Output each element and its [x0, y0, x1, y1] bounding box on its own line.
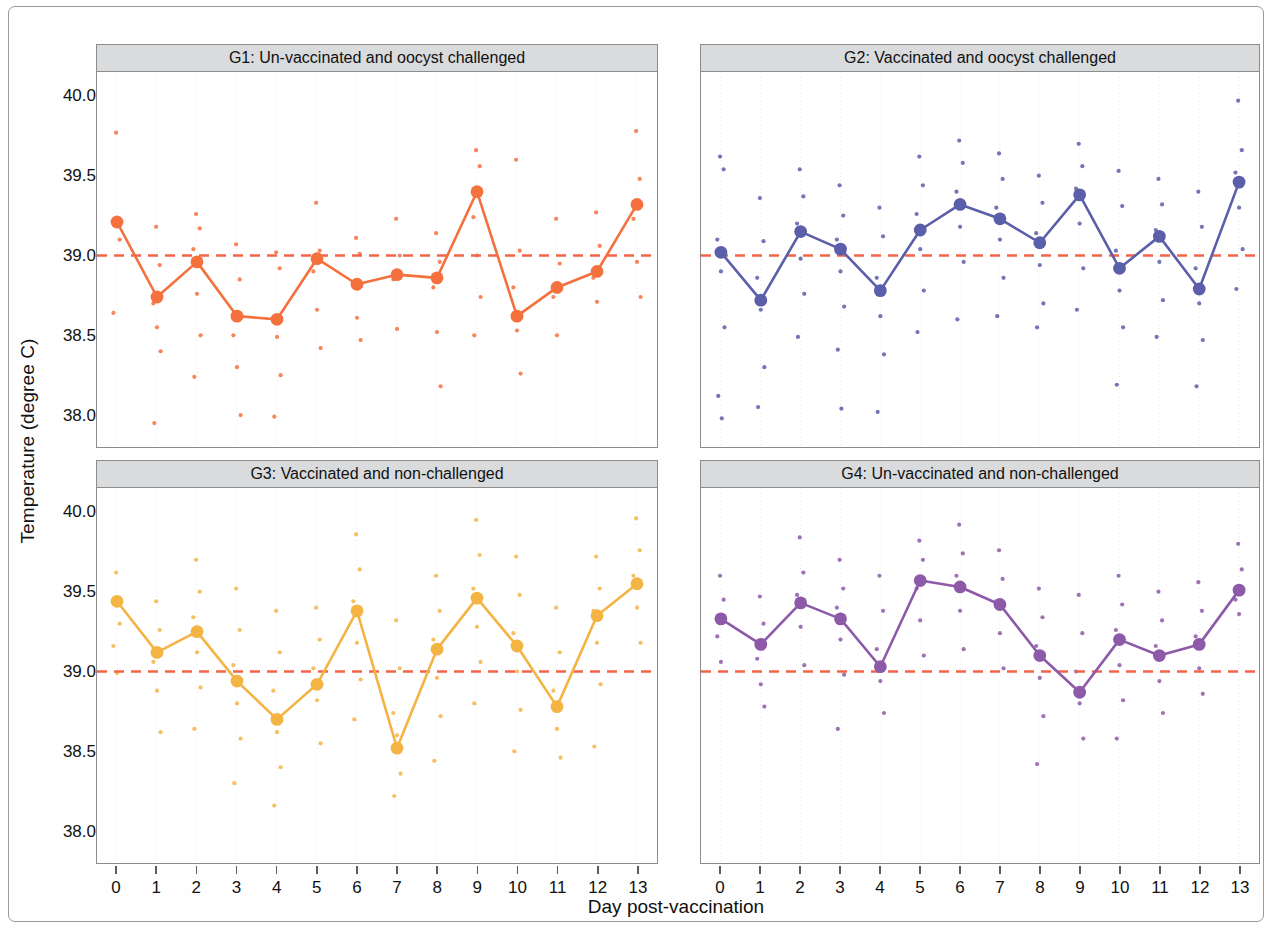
- x-tick-label: 9: [457, 878, 497, 898]
- data-point: [471, 586, 475, 590]
- mean-marker: [591, 609, 604, 622]
- data-point: [594, 210, 598, 214]
- data-point: [431, 637, 435, 641]
- data-point: [439, 714, 443, 718]
- plot-area-g4: [700, 488, 1260, 864]
- data-point: [354, 532, 358, 536]
- data-point: [1233, 170, 1237, 174]
- data-point: [882, 352, 886, 356]
- data-point: [955, 317, 959, 321]
- data-point: [479, 295, 483, 299]
- data-point: [192, 727, 196, 731]
- data-point: [1080, 164, 1084, 168]
- x-tick-mark: [839, 866, 841, 874]
- x-tick-mark: [196, 866, 198, 874]
- data-point: [1194, 266, 1198, 270]
- mean-marker: [715, 612, 728, 625]
- data-point: [231, 333, 235, 337]
- data-point: [995, 314, 999, 318]
- data-point: [472, 701, 476, 705]
- x-tick-mark: [436, 866, 438, 874]
- data-point: [478, 553, 482, 557]
- data-point: [235, 365, 239, 369]
- y-tick-label: 39.0: [34, 662, 96, 682]
- data-point: [518, 249, 522, 253]
- data-point: [954, 190, 958, 194]
- x-tick-mark: [959, 866, 961, 874]
- x-tick-mark: [1119, 866, 1121, 874]
- mean-marker: [834, 243, 847, 256]
- data-point: [114, 131, 118, 135]
- data-point: [519, 371, 523, 375]
- data-point: [762, 705, 766, 709]
- data-point: [598, 244, 602, 248]
- mean-marker: [715, 246, 728, 259]
- data-point: [922, 653, 926, 657]
- data-point: [836, 727, 840, 731]
- data-point: [1157, 679, 1161, 683]
- mean-marker: [794, 225, 807, 238]
- x-tick-mark: [477, 866, 479, 874]
- data-point: [234, 586, 238, 590]
- data-point: [1077, 142, 1081, 146]
- data-point: [882, 711, 886, 715]
- data-point: [111, 644, 115, 648]
- data-point: [957, 523, 961, 527]
- data-point: [1037, 586, 1041, 590]
- data-point: [1037, 174, 1041, 178]
- data-point: [478, 164, 482, 168]
- data-point: [755, 276, 759, 280]
- data-point: [1041, 301, 1045, 305]
- data-point: [195, 650, 199, 654]
- data-point: [195, 292, 199, 296]
- data-point: [354, 236, 358, 240]
- data-point: [431, 285, 435, 289]
- data-point: [1120, 204, 1124, 208]
- data-point: [1075, 308, 1079, 312]
- x-tick-label: 0: [700, 878, 740, 898]
- mean-marker: [511, 310, 524, 323]
- data-point: [278, 266, 282, 270]
- data-point: [718, 154, 722, 158]
- data-point: [957, 139, 961, 143]
- plot-area-g1: [96, 72, 658, 448]
- data-point: [154, 599, 158, 603]
- mean-marker: [111, 595, 124, 608]
- mean-marker: [1233, 176, 1246, 189]
- x-tick-mark: [155, 866, 157, 874]
- data-point: [271, 689, 275, 693]
- data-point: [358, 567, 362, 571]
- data-point: [841, 586, 845, 590]
- data-point: [559, 756, 563, 760]
- data-point: [479, 660, 483, 664]
- data-point: [515, 328, 519, 332]
- plot-area-g3: [96, 488, 658, 864]
- data-point: [998, 631, 1002, 635]
- data-point: [1161, 298, 1165, 302]
- data-point: [1201, 338, 1205, 342]
- data-point: [801, 570, 805, 574]
- x-tick-mark: [1079, 866, 1081, 874]
- mean-marker: [391, 268, 404, 281]
- data-point: [394, 217, 398, 221]
- data-point: [1197, 301, 1201, 305]
- x-tick-mark: [557, 866, 559, 874]
- x-tick-mark: [597, 866, 599, 874]
- data-point: [1194, 634, 1198, 638]
- data-point: [155, 689, 159, 693]
- data-point: [272, 415, 276, 419]
- data-point: [554, 217, 558, 221]
- data-point: [634, 516, 638, 520]
- data-point: [958, 609, 962, 613]
- data-point: [961, 551, 965, 555]
- x-tick-label: 7: [377, 878, 417, 898]
- panel-title-g4: G4: Un-vaccinated and non-challenged: [700, 460, 1260, 488]
- data-point: [352, 717, 356, 721]
- data-point: [875, 276, 879, 280]
- x-tick-label: 9: [1060, 878, 1100, 898]
- mean-marker: [311, 252, 324, 265]
- data-point: [191, 615, 195, 619]
- data-point: [1200, 609, 1204, 613]
- y-tick-label: 38.0: [34, 406, 96, 426]
- mean-marker: [954, 581, 967, 594]
